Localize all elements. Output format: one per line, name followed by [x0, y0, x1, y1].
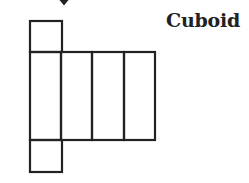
face-3	[92, 52, 124, 140]
arrow-down-icon	[60, 0, 69, 6]
diagram-title: Cuboid	[166, 9, 240, 31]
face-top-flap	[30, 21, 62, 52]
face-1	[30, 52, 61, 140]
cuboid-net-diagram: Cuboid	[0, 0, 249, 183]
face-2	[61, 52, 92, 140]
face-bottom-flap	[30, 140, 62, 172]
face-4	[124, 52, 155, 140]
